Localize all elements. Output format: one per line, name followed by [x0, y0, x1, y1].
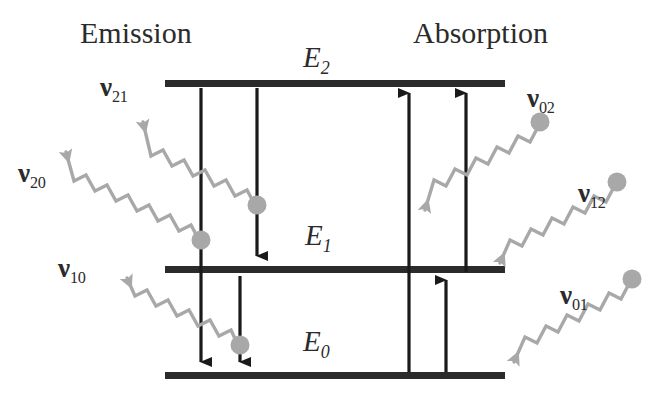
emission-photons [66, 122, 267, 355]
photon-wave-nu02 [425, 125, 539, 210]
photon-label-nu02: ν02 [527, 83, 555, 118]
photon-label-nu12-symbol: ν [578, 178, 590, 208]
photon-label-nu10: ν10 [58, 253, 86, 288]
photon-dot-nu12 [608, 173, 627, 192]
level-line-E0 [165, 372, 505, 379]
photon-wave-nu10 [127, 278, 238, 345]
photon-wave-nu21 [143, 122, 255, 205]
photon-label-nu20-sub: 20 [30, 174, 46, 192]
photon-label-nu10-sub: 10 [70, 269, 86, 287]
energy-level-diagram: Emission Absorption E2 E1 E0 ν21 ν20 ν10… [0, 0, 658, 400]
energy-label-E1: E1 [305, 219, 332, 257]
photon-label-nu20: ν20 [18, 158, 46, 193]
level-line-E2 [165, 80, 505, 87]
photon-label-nu01: ν01 [560, 280, 588, 315]
photon-label-nu21-symbol: ν [100, 72, 112, 102]
absorption-title: Absorption [413, 16, 548, 50]
photon-label-nu21-sub: 21 [112, 88, 128, 106]
absorption-transitions [409, 93, 466, 372]
photon-label-nu12: ν12 [578, 178, 606, 213]
photon-label-nu20-symbol: ν [18, 158, 30, 188]
photon-label-nu10-symbol: ν [58, 253, 70, 283]
energy-label-E0-sub: 0 [321, 342, 330, 362]
level-line-E1 [165, 266, 505, 273]
photon-label-nu01-sub: 01 [572, 296, 588, 314]
photon-dot-nu20 [192, 231, 211, 250]
photon-label-nu01-symbol: ν [560, 280, 572, 310]
energy-label-E1-letter: E [305, 219, 323, 251]
photon-dot-nu01 [623, 270, 642, 289]
photon-wave-nu20 [66, 152, 199, 240]
energy-levels [165, 80, 505, 379]
energy-label-E0-letter: E [303, 325, 321, 357]
energy-label-E2-letter: E [303, 41, 321, 73]
photon-dot-nu21 [248, 196, 267, 215]
energy-label-E2-sub: 2 [321, 58, 330, 78]
photon-label-nu12-sub: 12 [590, 194, 606, 212]
photon-label-nu21: ν21 [100, 72, 128, 107]
energy-label-E2: E2 [303, 41, 330, 79]
emission-title: Emission [80, 16, 192, 50]
photon-dot-nu10 [231, 336, 250, 355]
energy-label-E0: E0 [303, 325, 330, 363]
absorption-photons [425, 113, 642, 363]
energy-label-E1-sub: 1 [323, 236, 332, 256]
photon-label-nu02-symbol: ν [527, 83, 539, 113]
photon-label-nu02-sub: 02 [539, 99, 555, 117]
